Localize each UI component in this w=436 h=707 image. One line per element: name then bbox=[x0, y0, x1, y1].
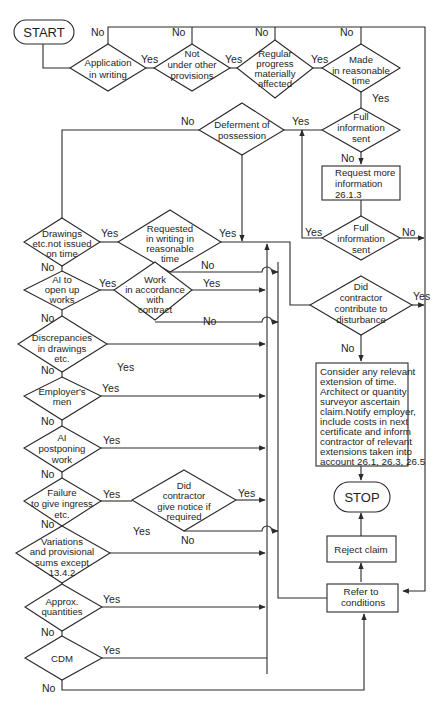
svg-text:No: No bbox=[42, 682, 56, 694]
svg-text:Yes: Yes bbox=[117, 361, 134, 373]
connector bbox=[43, 44, 70, 68]
decision-drawings-not-issued: Drawingsetc.not issuedon time bbox=[24, 218, 100, 266]
svg-text:No: No bbox=[255, 26, 269, 38]
svg-text:Notunder otherprovisions: Notunder otherprovisions bbox=[167, 48, 217, 81]
svg-text:START: START bbox=[23, 25, 64, 40]
svg-text:No: No bbox=[340, 26, 354, 38]
connector bbox=[302, 130, 322, 238]
svg-text:Yes: Yes bbox=[203, 277, 220, 289]
svg-text:Yes: Yes bbox=[141, 53, 158, 65]
decision-did-contractor-give-notice: Didcontractorgive notice ifrequired bbox=[132, 470, 236, 531]
svg-text:Yes: Yes bbox=[102, 382, 119, 394]
svg-text:No: No bbox=[203, 315, 217, 327]
svg-text:Applicationin writing: Applicationin writing bbox=[85, 57, 132, 80]
svg-text:Yes: Yes bbox=[103, 434, 120, 446]
decision-approx-quantities: Approx.quantities bbox=[25, 584, 102, 631]
decision-employers-men: Employer'smen bbox=[24, 377, 101, 420]
connector bbox=[155, 317, 278, 322]
decision-failure-to-give-ingress: Failureto give ingressetc. bbox=[24, 478, 101, 526]
flowchart-canvas: START Applicationin writing Notunder oth… bbox=[0, 0, 436, 707]
connector bbox=[184, 526, 278, 531]
decision-ai-open-up-works: AI toopen upworks bbox=[24, 271, 100, 310]
stop-terminal: STOP bbox=[334, 482, 390, 512]
svg-text:Regularprogressmateriallyaffec: Regularprogressmateriallyaffected bbox=[254, 48, 295, 89]
decision-application-in-writing: Applicationin writing bbox=[70, 44, 146, 91]
decision-regular-progress: Regularprogressmateriallyaffected bbox=[237, 40, 313, 98]
svg-text:Yes: Yes bbox=[413, 290, 430, 302]
svg-text:No: No bbox=[341, 152, 355, 164]
svg-text:No: No bbox=[41, 364, 55, 376]
process-refer-to-conditions: Refer toconditions bbox=[327, 584, 398, 612]
process-consider-extension: Consider any relevantextension of time.A… bbox=[316, 363, 426, 467]
svg-text:No: No bbox=[181, 115, 195, 127]
svg-text:Reject claim: Reject claim bbox=[334, 544, 387, 555]
decision-ai-postponing-work: AIpostponingwork bbox=[24, 426, 101, 472]
svg-text:No: No bbox=[402, 226, 416, 238]
decision-not-under-other-provisions: Notunder otherprovisions bbox=[154, 44, 230, 91]
svg-text:Yes: Yes bbox=[311, 53, 328, 65]
svg-text:Deferment ofpossession: Deferment ofpossession bbox=[214, 119, 270, 141]
svg-text:No: No bbox=[41, 312, 55, 324]
decision-discrepancies-in-drawings: Discrepanciesin drawingsetc. bbox=[18, 316, 107, 372]
svg-text:No: No bbox=[341, 342, 355, 354]
svg-text:No: No bbox=[91, 26, 105, 38]
process-reject-claim: Reject claim bbox=[327, 536, 396, 562]
decision-variations-provisional-sums: Variationsand provisionalsums except13.4… bbox=[16, 526, 110, 583]
connector bbox=[221, 242, 310, 305]
svg-text:Yes: Yes bbox=[238, 487, 255, 499]
svg-text:Yes: Yes bbox=[225, 53, 242, 65]
svg-text:CDM: CDM bbox=[51, 653, 73, 664]
svg-text:No: No bbox=[201, 259, 215, 271]
svg-text:Yes: Yes bbox=[292, 115, 309, 127]
svg-text:Consider any relevantextension: Consider any relevantextension of time.A… bbox=[320, 366, 426, 467]
svg-text:No: No bbox=[181, 534, 195, 546]
svg-text:Yes: Yes bbox=[305, 226, 322, 238]
svg-text:No: No bbox=[41, 626, 55, 638]
connector bbox=[170, 267, 278, 272]
start-terminal: START bbox=[14, 20, 74, 44]
connector bbox=[62, 130, 199, 218]
svg-text:No: No bbox=[41, 518, 55, 530]
svg-text:Yes: Yes bbox=[101, 227, 118, 239]
svg-text:Yes: Yes bbox=[372, 92, 389, 104]
svg-text:No: No bbox=[41, 468, 55, 480]
svg-text:Yes: Yes bbox=[103, 644, 120, 656]
process-request-more-information: Request moreinformation26.1.3 bbox=[322, 166, 400, 200]
decision-full-information-sent-2: Fullinformationsent bbox=[322, 216, 400, 260]
decision-made-in-reasonable-time: Madein reasonabletime bbox=[322, 44, 400, 92]
decision-full-information-sent-1: Fullinformationsent bbox=[322, 108, 400, 152]
decision-did-contractor-contribute: Didcontractorcontribute todisturbance bbox=[310, 276, 412, 335]
svg-text:Yes: Yes bbox=[219, 227, 236, 239]
svg-text:Approx.quantities: Approx.quantities bbox=[41, 596, 82, 617]
decision-cdm: CDM bbox=[25, 636, 102, 680]
svg-text:Yes: Yes bbox=[99, 277, 116, 289]
decision-deferment-of-possession: Deferment ofpossession bbox=[199, 103, 284, 155]
svg-text:Yes: Yes bbox=[103, 488, 120, 500]
svg-text:No: No bbox=[41, 415, 55, 427]
svg-text:No: No bbox=[41, 261, 55, 273]
svg-text:No: No bbox=[172, 26, 186, 38]
svg-text:Yes: Yes bbox=[103, 593, 120, 605]
svg-text:Yes: Yes bbox=[133, 525, 150, 537]
decision-work-in-accordance: Workin accordancewithcontract bbox=[114, 262, 192, 320]
svg-text:STOP: STOP bbox=[344, 490, 379, 505]
